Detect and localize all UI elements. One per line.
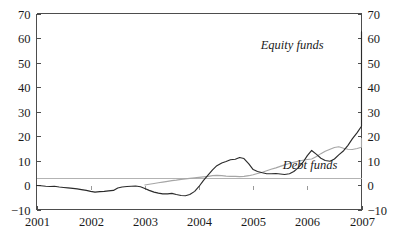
y-tick-label-right: 50 — [368, 57, 381, 71]
y-tick-label-left: 10 — [18, 155, 31, 169]
x-tick-marks — [38, 206, 363, 210]
y-axis-labels-right: 706050403020100−10 — [368, 8, 388, 218]
y-tick-label-right: 60 — [368, 32, 381, 46]
y-tick-marks-left — [37, 15, 41, 211]
y-tick-label-left: 0 — [24, 179, 30, 193]
x-tick-label: 2005 — [241, 215, 266, 229]
x-tick-label: 2007 — [350, 215, 375, 229]
x-axis-labels: 2001200220032004200520062007 — [25, 215, 375, 229]
x-tick-label: 2001 — [25, 215, 50, 229]
y-tick-label-left: 30 — [18, 106, 31, 120]
y-tick-label-right: 70 — [368, 8, 381, 22]
line-chart: 706050403020100−10 706050403020100−10 20… — [0, 0, 398, 233]
x-tick-label: 2006 — [295, 215, 320, 229]
y-tick-label-left: 50 — [18, 57, 31, 71]
x-tick-label: 2003 — [133, 215, 158, 229]
y-tick-marks-right — [358, 15, 362, 211]
y-tick-label-left: 60 — [18, 32, 31, 46]
y-tick-label-left: 40 — [18, 81, 31, 95]
y-tick-label-right: 40 — [368, 81, 381, 95]
y-tick-label-right: 30 — [368, 106, 381, 120]
annotation-equity-funds: Equity funds — [260, 38, 324, 52]
x-tick-label: 2004 — [187, 215, 213, 229]
y-tick-label-right: 0 — [368, 179, 374, 193]
y-axis-labels-left: 706050403020100−10 — [11, 8, 31, 218]
x-tick-label: 2002 — [79, 215, 104, 229]
y-tick-label-left: 70 — [18, 8, 31, 22]
chart-container: 706050403020100−10 706050403020100−10 20… — [0, 0, 398, 233]
y-tick-label-right: 10 — [368, 155, 381, 169]
y-tick-label-right: 20 — [368, 130, 381, 144]
annotation-debt-funds: Debt funds — [282, 158, 338, 172]
y-tick-label-left: 20 — [18, 130, 31, 144]
